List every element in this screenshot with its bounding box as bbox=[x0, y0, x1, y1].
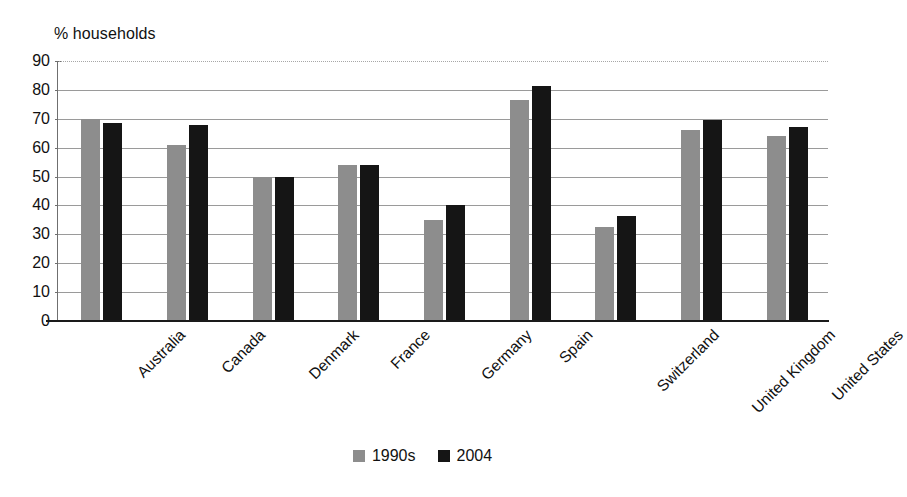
bar-group bbox=[595, 61, 636, 321]
bar[interactable] bbox=[446, 205, 465, 321]
x-tick-label: United States bbox=[828, 326, 907, 405]
bar-group bbox=[338, 61, 379, 321]
x-tick-label: United Kingdom bbox=[748, 326, 839, 417]
bar-group bbox=[510, 61, 551, 321]
plot-area bbox=[57, 61, 828, 321]
y-tick-label-30: 30 bbox=[10, 226, 50, 242]
bar[interactable] bbox=[360, 165, 379, 321]
bar-group bbox=[424, 61, 465, 321]
x-tick-label: Spain bbox=[556, 326, 597, 367]
legend-swatch-icon bbox=[438, 450, 450, 462]
y-tick-label-60: 60 bbox=[10, 140, 50, 156]
bar-group bbox=[681, 61, 722, 321]
bar[interactable] bbox=[789, 127, 808, 321]
bar[interactable] bbox=[510, 100, 529, 321]
x-tick-label: Switzerland bbox=[653, 326, 722, 395]
y-tick-label-70: 70 bbox=[10, 111, 50, 127]
y-axis-title: % households bbox=[54, 25, 156, 43]
bar[interactable] bbox=[253, 177, 272, 321]
y-tick-label-90: 90 bbox=[10, 53, 50, 69]
bar[interactable] bbox=[767, 136, 786, 321]
legend-label: 2004 bbox=[457, 448, 493, 464]
bar-group bbox=[253, 61, 294, 321]
bar[interactable] bbox=[103, 123, 122, 321]
x-tick-label: Australia bbox=[133, 326, 188, 381]
bar[interactable] bbox=[703, 120, 722, 321]
y-tick-label-20: 20 bbox=[10, 255, 50, 271]
bar-group bbox=[167, 61, 208, 321]
y-tick-label-80: 80 bbox=[10, 82, 50, 98]
bar[interactable] bbox=[338, 165, 357, 321]
bar-group bbox=[81, 61, 122, 321]
x-tick-label: France bbox=[387, 326, 434, 373]
bar[interactable] bbox=[81, 119, 100, 321]
bar[interactable] bbox=[681, 130, 700, 321]
y-tick-label-50: 50 bbox=[10, 169, 50, 185]
chart-legend: 1990s2004 bbox=[0, 448, 845, 464]
legend-entry[interactable]: 1990s bbox=[353, 448, 416, 464]
x-axis-category-labels: AustraliaCanadaDenmarkFranceGermanySpain… bbox=[0, 322, 845, 432]
bar[interactable] bbox=[189, 125, 208, 321]
y-tick-label-10: 10 bbox=[10, 284, 50, 300]
legend-entry[interactable]: 2004 bbox=[438, 448, 493, 464]
y-axis-line bbox=[57, 61, 58, 322]
x-tick-label: Germany bbox=[477, 326, 535, 384]
bar[interactable] bbox=[617, 216, 636, 321]
bar[interactable] bbox=[595, 227, 614, 321]
bar[interactable] bbox=[167, 145, 186, 321]
x-tick-label: Denmark bbox=[306, 326, 363, 383]
x-tick-label: Canada bbox=[217, 326, 268, 377]
bar[interactable] bbox=[532, 86, 551, 321]
bar[interactable] bbox=[275, 177, 294, 321]
legend-label: 1990s bbox=[372, 448, 416, 464]
bar[interactable] bbox=[424, 220, 443, 321]
legend-swatch-icon bbox=[353, 450, 365, 462]
bar-group bbox=[767, 61, 808, 321]
y-tick-label-40: 40 bbox=[10, 197, 50, 213]
